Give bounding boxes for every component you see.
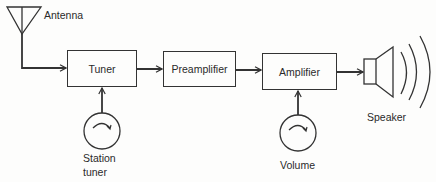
antenna-to-tuner-arrow bbox=[22, 34, 66, 68]
tuner-block: Tuner bbox=[67, 50, 137, 87]
station-tuner-label-line1: Station bbox=[83, 152, 116, 164]
amplifier-block: Amplifier bbox=[262, 53, 337, 90]
station-tuner-label-line2: tuner bbox=[83, 166, 107, 178]
tuner-label: Tuner bbox=[68, 51, 136, 86]
diagram-lines bbox=[0, 0, 436, 182]
preamplifier-label: Preamplifier bbox=[164, 52, 235, 86]
block-diagram: Antenna Tuner Preamplifier Amplifier Sta… bbox=[0, 0, 436, 182]
speaker-icon bbox=[364, 36, 430, 108]
antenna-icon bbox=[7, 7, 41, 34]
volume-label: Volume bbox=[280, 159, 315, 171]
station-tuner-knob-icon bbox=[84, 113, 120, 149]
amplifier-label: Amplifier bbox=[263, 54, 336, 89]
antenna-label: Antenna bbox=[44, 9, 83, 21]
speaker-label: Speaker bbox=[367, 111, 406, 123]
volume-knob-icon bbox=[280, 115, 316, 151]
preamplifier-block: Preamplifier bbox=[163, 51, 236, 87]
